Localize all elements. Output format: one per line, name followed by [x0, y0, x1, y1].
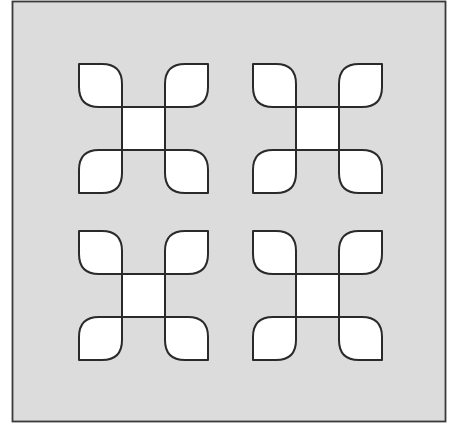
petal-bottom-left: [253, 317, 296, 360]
petal-top-right: [339, 231, 382, 274]
petal-bottom-left: [79, 317, 122, 360]
petal-top-left: [79, 231, 122, 274]
petal-top-right: [339, 64, 382, 107]
petal-bottom-left: [79, 150, 122, 193]
petal-top-left: [79, 64, 122, 107]
center-square: [296, 107, 339, 150]
petal-bottom-right: [165, 150, 208, 193]
center-square: [122, 274, 165, 317]
petal-top-right: [165, 64, 208, 107]
tile-pattern-figure: [0, 0, 459, 434]
petal-bottom-right: [339, 150, 382, 193]
center-square: [122, 107, 165, 150]
petal-bottom-right: [165, 317, 208, 360]
petal-top-left: [253, 231, 296, 274]
petal-top-left: [253, 64, 296, 107]
center-square: [296, 274, 339, 317]
petal-bottom-left: [253, 150, 296, 193]
petal-bottom-right: [339, 317, 382, 360]
petal-top-right: [165, 231, 208, 274]
